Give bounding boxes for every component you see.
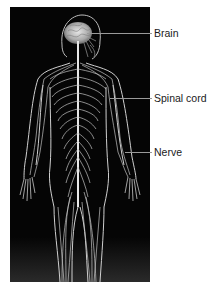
brain-leader-line [87,33,152,34]
label-nerve: Nerve [154,146,182,158]
label-brain: Brain [154,27,179,39]
nerve-leader-line [125,152,152,153]
nervous-system-illustration [10,7,150,282]
label-spinal-cord: Spinal cord [154,92,207,104]
body-figure-icon [10,7,150,282]
hand-nerves [20,177,140,201]
spinal-cord-leader-line [110,98,152,99]
